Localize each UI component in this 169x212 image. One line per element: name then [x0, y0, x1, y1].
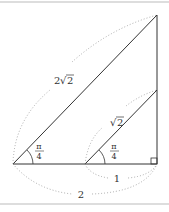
angle-denominator: 4 — [36, 152, 41, 161]
right-angle-marker — [151, 158, 157, 164]
triangle-diagram: 2 √ 2 √ 2 π 4 π 4 1 2 — [0, 0, 169, 212]
angle-numerator: π — [111, 142, 116, 151]
big-hypotenuse-label: 2 √ 2 — [54, 75, 74, 86]
small-hyp-radicand: 2 — [117, 117, 123, 128]
figure-container: 2 √ 2 √ 2 π 4 π 4 1 2 — [0, 0, 169, 212]
small-hyp-brace-lower — [85, 128, 102, 164]
small-base-brace-right — [128, 164, 157, 178]
big-hyp-radicand: 2 — [67, 75, 73, 86]
small-hypotenuse-label: √ 2 — [110, 117, 124, 128]
big-base-brace-left — [13, 164, 72, 194]
small-angle-label: π 4 — [110, 142, 119, 161]
angle-numerator: π — [36, 142, 41, 151]
sqrt-symbol: √ — [60, 75, 67, 86]
small-base-brace-left — [85, 164, 108, 178]
big-base-brace-right — [92, 164, 157, 194]
big-hypotenuse — [13, 15, 157, 164]
big-hyp-brace-upper — [72, 15, 157, 62]
sqrt-symbol: √ — [110, 117, 117, 128]
small-angle-arc — [99, 150, 105, 164]
big-angle-arc — [27, 150, 33, 164]
big-angle-label: π 4 — [35, 142, 44, 161]
big-base-label: 2 — [78, 189, 84, 200]
big-hyp-brace-lower — [13, 90, 50, 164]
angle-denominator: 4 — [111, 152, 116, 161]
small-hyp-brace-upper — [126, 90, 157, 106]
small-base-label: 1 — [114, 173, 120, 184]
